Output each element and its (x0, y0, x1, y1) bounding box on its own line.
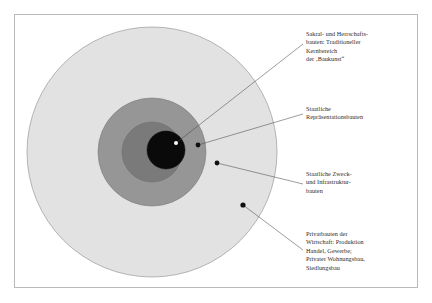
callout-label-staatliche-zweckbauten: Staatliche Zweck- und Infrastruktur- bau… (306, 170, 418, 195)
callout-label-staatliche-repraesentationsbauten: Staatliche Repräsentationsbauten (306, 105, 418, 122)
marker-dot-core (174, 141, 178, 145)
callout-label-privatbauten-wirtschaft: Privatbauten der Wirtschaft: Produktion … (306, 230, 422, 272)
callout-label-sakral-herrschaftsbauten: Sakral- und Herrschafts- bauten: Traditi… (306, 30, 418, 64)
marker-dot-inner (196, 143, 201, 148)
marker-dot-outer (240, 202, 245, 207)
marker-dot-middle (215, 161, 220, 166)
concentric-circles-diagram: Sakral- und Herrschafts- bauten: Traditi… (0, 0, 432, 303)
ring-core-circle (147, 131, 185, 169)
